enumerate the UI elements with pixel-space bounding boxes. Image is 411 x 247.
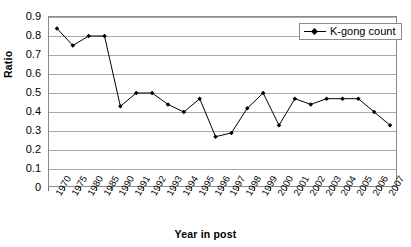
x-axis-tick [397, 187, 398, 191]
x-axis-tick [207, 187, 208, 191]
data-point-marker [86, 34, 91, 39]
series-line [57, 28, 390, 136]
x-axis-tick [64, 187, 65, 191]
data-point-marker [293, 96, 298, 101]
x-axis-tick [365, 187, 366, 191]
x-axis-tick [286, 187, 287, 191]
y-axis-tick-label: 0.8 [26, 30, 41, 41]
y-axis-tick-labels: 0.90.80.70.60.50.40.30.20.10 [0, 0, 44, 203]
data-point-marker [213, 134, 218, 139]
x-axis-ticks [48, 187, 397, 191]
data-point-marker [308, 102, 313, 107]
x-axis-tick [334, 187, 335, 191]
y-axis-tick-label: 0.2 [26, 144, 41, 155]
x-axis-tick [80, 187, 81, 191]
x-axis-tick [381, 187, 382, 191]
data-point-marker [324, 96, 329, 101]
series-layer [49, 17, 398, 188]
x-axis-tick [175, 187, 176, 191]
x-axis-tick [270, 187, 271, 191]
legend-item-label: K-gong count [330, 26, 395, 37]
y-axis-tick-label: 0.6 [26, 68, 41, 79]
x-axis-tick [238, 187, 239, 191]
data-point-marker [277, 123, 282, 128]
x-axis-tick [127, 187, 128, 191]
data-point-marker [340, 96, 345, 101]
y-axis-tick-label: 0.7 [26, 49, 41, 60]
y-axis-tick-label: 0.4 [26, 106, 41, 117]
x-axis-tick [111, 187, 112, 191]
data-point-marker [102, 34, 107, 39]
x-axis-tick [191, 187, 192, 191]
x-axis-tick [318, 187, 319, 191]
y-axis-tick-label: 0.1 [26, 163, 41, 174]
chart-container: 0.90.80.70.60.50.40.30.20.10 Ratio 19701… [0, 0, 411, 247]
x-axis-tick [302, 187, 303, 191]
y-axis-tick-label: 0.5 [26, 87, 41, 98]
x-axis-tick [143, 187, 144, 191]
x-axis-title: Year in post [0, 228, 411, 240]
x-axis-tick [349, 187, 350, 191]
y-axis-title: Ratio [2, 51, 14, 78]
y-axis-tick-label: 0.3 [26, 125, 41, 136]
x-axis-tick [48, 187, 49, 191]
legend-line-marker-icon [304, 27, 326, 36]
x-axis-tick [96, 187, 97, 191]
x-axis-tick [159, 187, 160, 191]
y-axis-tick-label: 0 [35, 182, 41, 193]
chart-legend: K-gong count [299, 23, 402, 40]
plot-area [48, 16, 397, 187]
x-axis-tick [223, 187, 224, 191]
x-axis-tick [254, 187, 255, 191]
y-axis-tick-label: 0.9 [26, 11, 41, 22]
